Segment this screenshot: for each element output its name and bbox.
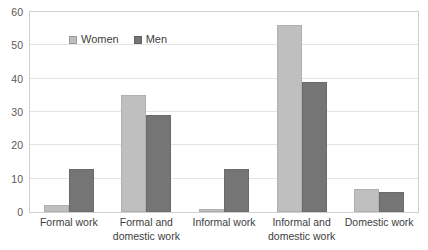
x-axis: Formal workFormal anddomestic workInform… bbox=[30, 216, 418, 250]
legend-entry-men: Men bbox=[134, 34, 167, 45]
legend-label-women: Women bbox=[81, 34, 119, 45]
bar-women bbox=[44, 205, 69, 212]
x-tick-label: Domestic work bbox=[340, 216, 418, 230]
bar-women bbox=[121, 95, 146, 212]
chart-legend: Women Men bbox=[69, 34, 167, 45]
y-tick-label: 30 bbox=[0, 107, 23, 118]
x-tick-label-line: Formal and bbox=[108, 216, 186, 230]
y-tick-label: 0 bbox=[0, 207, 23, 218]
bar-men bbox=[146, 115, 171, 212]
bar-women bbox=[277, 25, 302, 212]
bar-chart: 0102030405060 Formal workFormal anddomes… bbox=[0, 0, 428, 250]
x-tick-label-line: Informal and bbox=[263, 216, 341, 230]
y-tick-label: 40 bbox=[0, 74, 23, 85]
x-tick-label-line: Formal work bbox=[30, 216, 108, 230]
legend-entry-women: Women bbox=[69, 34, 119, 45]
bar-men bbox=[302, 82, 327, 212]
y-tick-label: 10 bbox=[0, 174, 23, 185]
x-tick-label-line: Domestic work bbox=[340, 216, 418, 230]
x-tick-label: Informal anddomestic work bbox=[263, 216, 341, 243]
legend-label-men: Men bbox=[146, 34, 167, 45]
bar-women bbox=[354, 189, 379, 212]
y-tick-label: 20 bbox=[0, 140, 23, 151]
bar-men bbox=[224, 169, 249, 212]
x-tick-label-line: domestic work bbox=[108, 230, 186, 244]
bar-group bbox=[340, 12, 418, 212]
x-tick-label-line: Informal work bbox=[185, 216, 263, 230]
legend-swatch-men-icon bbox=[134, 36, 142, 44]
x-tick-label: Informal work bbox=[185, 216, 263, 230]
y-tick-label: 50 bbox=[0, 40, 23, 51]
bar-group bbox=[263, 12, 341, 212]
legend-swatch-women-icon bbox=[69, 36, 77, 44]
x-tick-label-line: domestic work bbox=[263, 230, 341, 244]
bar-group bbox=[185, 12, 263, 212]
bar-women bbox=[199, 209, 224, 212]
x-tick-label: Formal anddomestic work bbox=[108, 216, 186, 243]
bar-men bbox=[379, 192, 404, 212]
bar-men bbox=[69, 169, 94, 212]
x-tick-label: Formal work bbox=[30, 216, 108, 230]
y-tick-label: 60 bbox=[0, 7, 23, 18]
